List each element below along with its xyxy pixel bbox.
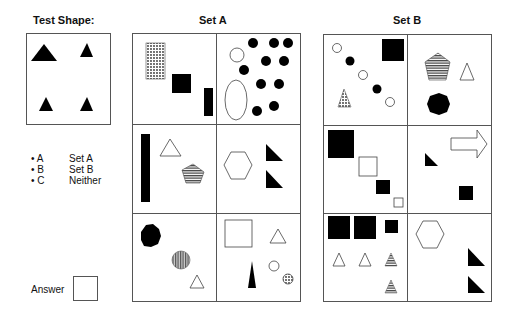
test-triangles: [31, 43, 93, 111]
puzzle-shapes: [0, 0, 512, 316]
